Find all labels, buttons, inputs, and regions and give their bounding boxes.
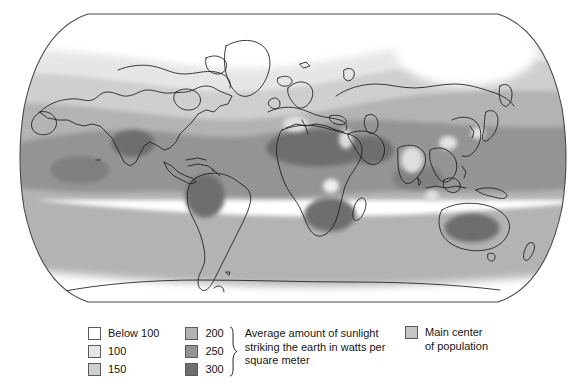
legend-swatch-250 xyxy=(185,345,198,358)
core-300-south-america xyxy=(185,174,225,218)
core-300-arabia xyxy=(346,136,394,164)
legend-item: 250 xyxy=(185,344,223,359)
legend-item: 100 xyxy=(88,344,159,359)
desc-line-2: striking the earth in watts per xyxy=(245,341,386,355)
desc-line-3: square meter xyxy=(245,354,386,368)
sunlight-scale-legend: Below 100 100 150 200 250 xyxy=(88,326,385,377)
legend-column-two: 200 250 300 xyxy=(185,326,223,377)
legend-label-200: 200 xyxy=(205,327,223,340)
population-legend-label: Main center of population xyxy=(425,326,488,353)
legend-label-250: 250 xyxy=(205,345,223,358)
population-legend: Main center of population xyxy=(405,326,488,353)
legend-column-one: Below 100 100 150 xyxy=(88,326,159,377)
legend-swatch-population xyxy=(405,326,418,339)
desc-line-1: Average amount of sunlight xyxy=(245,327,386,341)
legend-swatch-below-100 xyxy=(88,327,101,340)
legend-item: Below 100 xyxy=(88,326,159,341)
core-300-australia xyxy=(444,213,500,243)
pop-patch-se-asia xyxy=(425,190,439,202)
curly-brace-icon xyxy=(229,326,238,377)
pop-patch-central-africa xyxy=(323,179,339,193)
world-map-figure xyxy=(0,0,586,315)
pop-patch-india xyxy=(401,147,423,173)
pop-line-1: Main center xyxy=(425,326,488,340)
legend-brace xyxy=(229,326,238,377)
pop-line-2: of population xyxy=(425,340,488,354)
legend-swatch-100 xyxy=(88,345,101,358)
core-300-pacific xyxy=(50,156,110,184)
legend-item: 200 xyxy=(185,326,223,341)
legend-label-300: 300 xyxy=(205,363,223,376)
world-map-svg xyxy=(0,0,586,315)
legend-label-150: 150 xyxy=(108,363,126,376)
core-300-southern-africa xyxy=(304,198,356,232)
legend-item: 300 xyxy=(185,362,223,377)
map-plot-area xyxy=(0,0,586,315)
legend-swatch-300 xyxy=(185,363,198,376)
legend-swatch-150 xyxy=(88,363,101,376)
legend-item: 150 xyxy=(88,362,159,377)
legend-label-below-100: Below 100 xyxy=(108,327,159,340)
northeast-asia-white xyxy=(396,18,536,86)
legend-label-100: 100 xyxy=(108,345,126,358)
map-legend: Below 100 100 150 200 250 xyxy=(0,318,586,387)
legend-swatch-200 xyxy=(185,327,198,340)
sunlight-description: Average amount of sunlight striking the … xyxy=(245,326,386,368)
